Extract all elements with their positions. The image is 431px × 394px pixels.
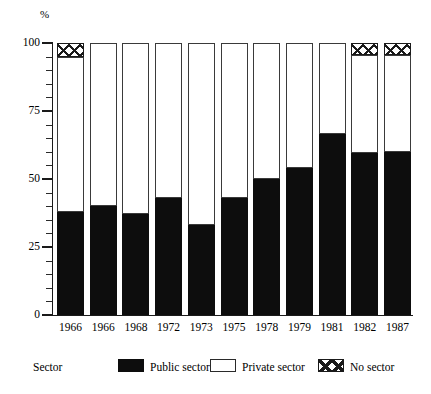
bar-segment-private-sector[interactable]: [319, 43, 346, 134]
legend-entry-label: No sector: [350, 360, 394, 374]
y-tick-major: [42, 246, 52, 248]
bar-segment-private-sector[interactable]: [90, 43, 117, 206]
bar-segment-public-sector[interactable]: [319, 134, 346, 315]
x-axis-line: [52, 315, 413, 316]
plot-area: [52, 43, 412, 315]
y-tick-label: 100: [0, 37, 40, 48]
bar-group[interactable]: [122, 43, 149, 315]
y-tick-label-text: 100: [0, 37, 40, 48]
bar-segment-no-sector[interactable]: [384, 43, 411, 55]
y-tick-label: 75: [0, 105, 40, 116]
y-tick-major: [42, 178, 52, 180]
stacked-bar-chart-figure: % 0255075100 196619661968197219731975197…: [0, 0, 431, 394]
bar-segment-private-sector[interactable]: [57, 57, 84, 212]
legend-swatch-public-sector-icon: [118, 359, 144, 372]
bar-segment-private-sector[interactable]: [188, 43, 215, 225]
y-tick-label: 25: [0, 241, 40, 252]
legend-title: Sector: [33, 360, 62, 374]
bar-group[interactable]: [319, 43, 346, 315]
bar-segment-public-sector[interactable]: [90, 206, 117, 315]
bar-segment-public-sector[interactable]: [57, 212, 84, 315]
legend-entry-label: Public sector: [150, 360, 210, 374]
y-tick-major: [42, 110, 52, 112]
bar-group[interactable]: [57, 43, 84, 315]
y-tick-label-text: 25: [0, 241, 40, 252]
y-axis-unit-label: %: [40, 8, 49, 20]
bar-group[interactable]: [286, 43, 313, 315]
bar-segment-public-sector[interactable]: [122, 214, 149, 315]
legend-swatch-no-sector-icon: [318, 359, 344, 372]
y-tick-major: [42, 42, 52, 44]
bar-segment-public-sector[interactable]: [253, 179, 280, 315]
bar-segment-public-sector[interactable]: [351, 153, 378, 315]
legend-swatch-private-sector-icon: [210, 359, 236, 372]
bar-segment-public-sector[interactable]: [155, 198, 182, 315]
bar-group[interactable]: [351, 43, 378, 315]
bar-segment-private-sector[interactable]: [253, 43, 280, 179]
bar-segment-no-sector[interactable]: [351, 43, 378, 55]
y-tick-label: 0: [0, 309, 40, 320]
bar-segment-public-sector[interactable]: [286, 168, 313, 315]
chart-legend: Sector Public sectorPrivate sectorNo sec…: [0, 356, 431, 380]
y-tick-label-text: 75: [0, 105, 40, 116]
bar-segment-private-sector[interactable]: [286, 43, 313, 168]
bar-segment-public-sector[interactable]: [188, 225, 215, 315]
legend-entry-label: Private sector: [242, 360, 305, 374]
bar-group[interactable]: [90, 43, 117, 315]
bar-segment-private-sector[interactable]: [351, 55, 378, 153]
bar-group[interactable]: [188, 43, 215, 315]
y-tick-label-text: 0: [0, 309, 40, 320]
bar-group[interactable]: [221, 43, 248, 315]
x-tick-label: 1987: [377, 320, 419, 334]
bar-segment-public-sector[interactable]: [384, 152, 411, 315]
bar-segment-no-sector[interactable]: [57, 43, 84, 57]
bar-segment-public-sector[interactable]: [221, 198, 248, 315]
bar-group[interactable]: [253, 43, 280, 315]
y-tick-label-text: 50: [0, 173, 40, 184]
y-tick-major: [42, 314, 52, 316]
bar-segment-private-sector[interactable]: [122, 43, 149, 214]
y-tick-label: 50: [0, 173, 40, 184]
bar-segment-private-sector[interactable]: [384, 55, 411, 152]
bar-segment-private-sector[interactable]: [155, 43, 182, 198]
bar-group[interactable]: [155, 43, 182, 315]
bar-group[interactable]: [384, 43, 411, 315]
bar-segment-private-sector[interactable]: [221, 43, 248, 198]
